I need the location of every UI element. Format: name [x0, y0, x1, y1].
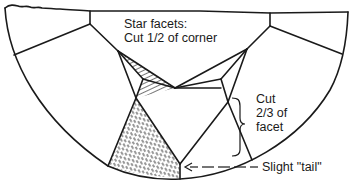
label-cut-facet-line2: 2/3 of [256, 106, 287, 120]
label-tail-text: Slight "tail" [262, 160, 322, 174]
line-right-upper [270, 26, 342, 54]
label-cut-facet-line3: facet [256, 120, 287, 134]
edge-left-to-star [90, 24, 118, 51]
label-tail: Slight "tail" [262, 160, 322, 174]
label-cut-facet-line1: Cut [256, 92, 287, 106]
label-star-facets-line2: Cut 1/2 of corner [124, 31, 217, 45]
tail-arrow [185, 163, 258, 171]
top-edge [5, 5, 348, 13]
label-star-facets-line1: Star facets: [124, 17, 217, 31]
label-cut-facet: Cut 2/3 of facet [256, 92, 287, 134]
line-lower-right-center [180, 102, 228, 164]
label-star-facets: Star facets: Cut 1/2 of corner [124, 17, 217, 45]
edge-right-to-star [247, 26, 270, 49]
line-left-upper [14, 24, 90, 55]
